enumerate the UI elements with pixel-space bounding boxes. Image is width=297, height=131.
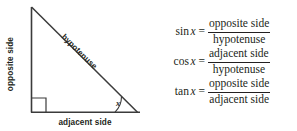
equation-cosine: cosx= adjacent side hypotenuse: [158, 47, 297, 77]
right-triangle-diagram: opposite side adjacent side hypotenuse x: [0, 0, 152, 131]
trigonometry-reference-figure: opposite side adjacent side hypotenuse x…: [0, 0, 297, 131]
tangent-equals-sign: =: [196, 85, 206, 97]
cosine-numerator: adjacent side: [208, 47, 270, 61]
sine-equals-sign: =: [196, 25, 206, 37]
cosine-denominator: hypotenuse: [212, 63, 266, 77]
tangent-variable: x: [189, 85, 196, 97]
sine-left-hand-side: sinx=: [158, 26, 208, 38]
sine-denominator: hypotenuse: [212, 33, 266, 47]
opposite-side-label: opposite side: [7, 34, 15, 94]
trig-ratio-equations: sinx= opposite side hypotenuse cosx= adj…: [158, 17, 297, 107]
sine-variable: x: [189, 25, 196, 37]
cosine-function-name: cos: [174, 55, 189, 67]
triangle-vector-graphic: [0, 0, 152, 131]
equation-sine: sinx= opposite side hypotenuse: [158, 17, 297, 47]
angle-x-label: x: [116, 100, 120, 108]
cosine-left-hand-side: cosx=: [158, 56, 208, 68]
cosine-variable: x: [189, 55, 196, 67]
equation-tangent: tanx= opposite side adjacent side: [158, 77, 297, 107]
cosine-fraction: adjacent side hypotenuse: [208, 47, 270, 76]
sine-function-name: sin: [175, 25, 188, 37]
sine-numerator: opposite side: [208, 17, 270, 31]
tangent-fraction: opposite side adjacent side: [208, 77, 270, 106]
tangent-function-name: tan: [175, 85, 189, 97]
adjacent-side-label: adjacent side: [32, 119, 138, 127]
tangent-numerator: opposite side: [208, 77, 270, 91]
tangent-denominator: adjacent side: [208, 93, 270, 107]
right-angle-marker-icon: [32, 98, 47, 112]
cosine-equals-sign: =: [196, 55, 206, 67]
tangent-left-hand-side: tanx=: [158, 86, 208, 98]
sine-fraction: opposite side hypotenuse: [208, 17, 270, 46]
